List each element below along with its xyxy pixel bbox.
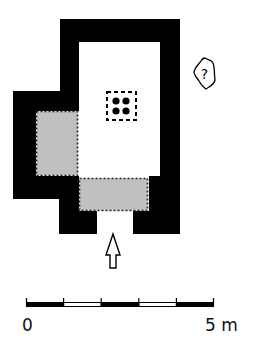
scale-start-label: 0 <box>22 317 33 334</box>
scale-bar <box>26 298 214 307</box>
question-marker-icon: ? <box>194 58 215 89</box>
entrance-arrow-icon <box>106 234 120 268</box>
shaded-area-left <box>37 112 78 176</box>
svg-text:?: ? <box>201 66 208 82</box>
shaded-area-entrance <box>80 179 148 211</box>
floor-plan: ? <box>0 0 256 354</box>
scale-end-label: 5 m <box>205 317 238 334</box>
